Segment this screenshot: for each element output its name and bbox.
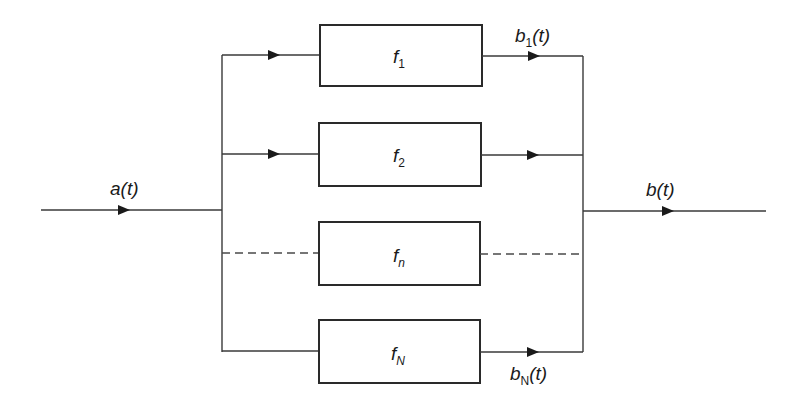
branch-1-in-arrow-icon (268, 50, 280, 60)
input-arrow-icon (118, 205, 130, 215)
block-f1 (320, 25, 482, 86)
branch-1-out-arrow-icon (528, 51, 540, 61)
branch-2: f2 (222, 123, 583, 186)
output-b1-label: b1(t) (515, 25, 550, 50)
parallel-system-diagram: a(t) f1 b1(t) f2 fn fN bN(t) (0, 0, 804, 411)
branch-N-out-arrow-icon (527, 347, 539, 357)
block-f2 (319, 123, 481, 186)
branch-2-in-arrow-icon (268, 149, 280, 159)
branch-N: fN bN(t) (222, 320, 583, 388)
block-fn (319, 222, 480, 285)
output-arrow-icon (662, 206, 674, 216)
branch-1: f1 b1(t) (222, 25, 583, 86)
block-fN (319, 320, 480, 383)
branch-n: fn (222, 222, 583, 285)
output-bN-label: bN(t) (510, 363, 547, 388)
output-label: b(t) (646, 179, 675, 200)
branch-2-out-arrow-icon (527, 150, 539, 160)
input-label: a(t) (110, 178, 139, 199)
